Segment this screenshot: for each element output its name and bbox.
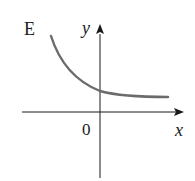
panel-label: E <box>24 20 35 38</box>
graph-figure: E y 0 x <box>0 0 195 181</box>
function-curve <box>51 36 168 97</box>
x-axis-label: x <box>175 121 183 139</box>
y-axis-label: y <box>82 19 90 37</box>
origin-label: 0 <box>82 121 91 138</box>
y-axis-arrow-icon <box>96 24 104 34</box>
